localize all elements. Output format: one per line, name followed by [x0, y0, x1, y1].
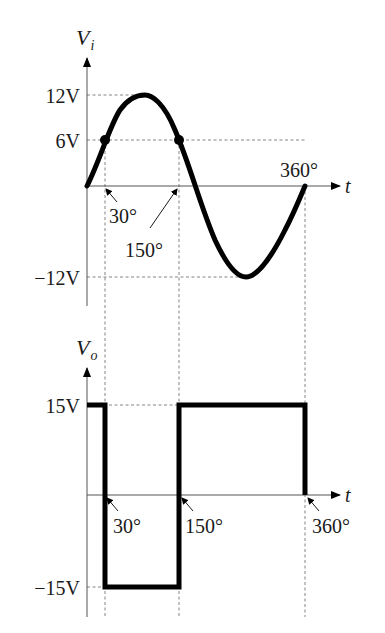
vi-time-axis-label: t — [345, 175, 351, 197]
tick-label-6v: 6V — [56, 130, 81, 152]
angle-label-360deg-top: 360° — [280, 159, 318, 181]
output-waveform-plot: Vo 15V −15V 30° 150° 360° t — [34, 335, 351, 617]
crossing-point-30deg — [100, 135, 110, 145]
vo-axis-label: Vo — [76, 335, 97, 363]
tick-label-neg12v: −12V — [34, 267, 80, 289]
vo-time-axis-label: t — [345, 484, 351, 506]
angle-label-30deg-top: 30° — [109, 205, 137, 227]
pointer-arrow-150deg — [150, 189, 177, 228]
crossing-point-150deg — [174, 135, 184, 145]
horizontal-guide-lines-bottom — [87, 405, 305, 587]
waveform-diagram: Vi 12V 6V −12V 30° 150° 360° t Vo 15V −1… — [0, 0, 385, 633]
angle-label-150deg-top: 150° — [125, 239, 163, 261]
tick-label-12v: 12V — [46, 85, 81, 107]
square-wave-trace — [87, 405, 305, 587]
pointer-arrow-30deg — [106, 189, 117, 202]
tick-label-neg15v: −15V — [34, 577, 80, 599]
pointer-arrow-30deg-bottom — [107, 498, 118, 511]
vi-axis-label: Vi — [76, 25, 94, 53]
pointer-arrow-360deg-bottom — [308, 498, 319, 511]
angle-label-30deg-bottom: 30° — [113, 515, 141, 537]
angle-label-360deg-bottom: 360° — [312, 515, 350, 537]
pointer-arrow-150deg-bottom — [182, 498, 193, 511]
angle-label-150deg-bottom: 150° — [185, 515, 223, 537]
tick-label-15v: 15V — [46, 395, 81, 417]
